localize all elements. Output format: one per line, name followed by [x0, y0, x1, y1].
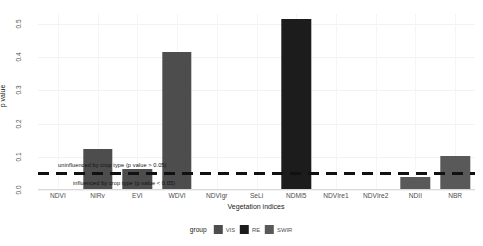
x-tick-label-ndii: NDII [409, 192, 422, 199]
y-tick-label: 0.2 [15, 119, 22, 128]
y-tick-label: 0.1 [15, 152, 22, 161]
gridline [38, 190, 475, 191]
x-tick-label-ndvire2: NDVIre2 [363, 192, 388, 199]
legend-label-vis: VIS [226, 227, 235, 233]
x-tick-label-nirv: NIRv [90, 192, 105, 199]
bar-slot [237, 14, 277, 190]
bar-slot [276, 14, 316, 190]
x-tick-label-ndvire1: NDVIre1 [323, 192, 348, 199]
bar-wdvi[interactable] [162, 52, 191, 190]
legend-item-swir[interactable]: SWIR [265, 225, 292, 234]
y-axis-title: p value [0, 85, 6, 108]
legend-swatch-swir [265, 225, 274, 234]
y-tick-label: 0.0 [15, 185, 22, 194]
legend-swatch-vis [214, 225, 223, 234]
x-tick-label-ndmi5: NDMI5 [286, 192, 307, 199]
y-tick-label: 0.4 [15, 53, 22, 62]
x-axis-baseline [38, 189, 475, 190]
legend-label-re: RE [252, 227, 260, 233]
threshold-label-below: influenced by crop type (p value < 0.05) [73, 180, 175, 186]
legend-title: group [190, 226, 207, 233]
legend-item-re[interactable]: RE [240, 225, 260, 234]
bar-slot [197, 14, 237, 190]
x-tick-label-seli: SeLi [250, 192, 263, 199]
bar-slot [396, 14, 436, 190]
threshold-line [38, 172, 475, 175]
bar-slot [356, 14, 396, 190]
threshold-label-above: uninfluenced by crop type (p value > 0.0… [58, 162, 167, 168]
legend-label-swir: SWIR [277, 227, 292, 233]
x-tick-label-evi: EVI [132, 192, 143, 199]
x-tick-label-ndvi: NDVI [50, 192, 66, 199]
y-tick-label: 0.5 [15, 19, 22, 28]
legend-swatch-re [240, 225, 249, 234]
plot-area: uninfluenced by crop type (p value > 0.0… [38, 14, 475, 190]
y-tick-label: 0.3 [15, 86, 22, 95]
x-axis-title: Vegetation indices [228, 203, 285, 210]
x-tick-label-ndvigr: NDVIgr [206, 192, 228, 199]
bar-slot [316, 14, 356, 190]
legend: group VISRESWIR [190, 225, 292, 234]
legend-item-vis[interactable]: VIS [214, 225, 235, 234]
bar-ndmi5[interactable] [282, 19, 311, 190]
x-tick-label-nbr: NBR [448, 192, 462, 199]
p-value-bar-chart: p value 0.00.10.20.30.40.5 uninfluenced … [0, 0, 483, 246]
bar-slot [435, 14, 475, 190]
x-tick-label-wdvi: WDVI [168, 192, 185, 199]
legend-items: VISRESWIR [214, 225, 293, 234]
